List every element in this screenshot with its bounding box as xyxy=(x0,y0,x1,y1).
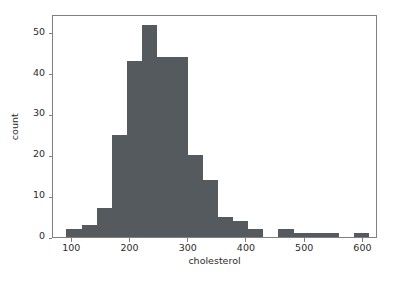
y-axis: 01020304050 xyxy=(0,15,52,238)
x-tick-mark xyxy=(129,238,130,242)
y-tick-label: 0 xyxy=(39,231,45,241)
y-tick-label: 30 xyxy=(33,108,45,118)
bars-layer xyxy=(53,16,376,237)
x-tick-label: 400 xyxy=(237,243,255,253)
y-tick-label: 10 xyxy=(33,190,45,200)
plot-area xyxy=(52,15,377,238)
histogram-figure: count 01020304050 100200300400500600 cho… xyxy=(0,0,400,281)
histogram-bar xyxy=(294,233,309,237)
x-tick-mark xyxy=(71,238,72,242)
histogram-bar xyxy=(203,180,218,237)
histogram-bar xyxy=(188,155,203,237)
y-tick-label: 40 xyxy=(33,68,45,78)
histogram-bar xyxy=(218,217,233,237)
y-tick-label: 50 xyxy=(33,27,45,37)
histogram-bar xyxy=(248,229,263,237)
x-tick-label: 600 xyxy=(353,243,371,253)
x-tick-label: 300 xyxy=(179,243,197,253)
histogram-bar xyxy=(66,229,81,237)
x-tick-label: 100 xyxy=(62,243,80,253)
histogram-bar xyxy=(82,225,97,237)
histogram-bar xyxy=(142,25,157,237)
x-axis-title: cholesterol xyxy=(52,256,377,266)
x-tick-label: 500 xyxy=(295,243,313,253)
histogram-bar xyxy=(172,57,187,237)
x-axis-title-text: cholesterol xyxy=(188,255,240,266)
x-tick-label: 200 xyxy=(120,243,138,253)
histogram-bar xyxy=(157,57,172,237)
x-tick-mark xyxy=(304,238,305,242)
y-tick-label: 20 xyxy=(33,149,45,159)
histogram-bar xyxy=(97,208,112,237)
histogram-bar xyxy=(127,61,142,237)
histogram-bar xyxy=(112,135,127,237)
x-tick-mark xyxy=(362,238,363,242)
histogram-bar xyxy=(233,221,248,237)
x-tick-mark xyxy=(187,238,188,242)
histogram-bar xyxy=(324,233,339,237)
x-tick-mark xyxy=(245,238,246,242)
histogram-bar xyxy=(309,233,324,237)
histogram-bar xyxy=(354,233,369,237)
histogram-bar xyxy=(278,229,293,237)
